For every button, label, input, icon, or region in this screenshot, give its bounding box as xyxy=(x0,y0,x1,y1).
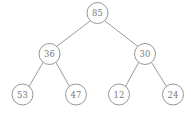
tree-edge xyxy=(126,63,139,87)
binary-tree-diagram: 85363053471224 xyxy=(0,0,191,114)
tree-node: 36 xyxy=(39,44,60,65)
node-label: 30 xyxy=(139,49,150,59)
tree-edge xyxy=(29,63,43,87)
tree-node: 47 xyxy=(66,84,87,105)
tree-edge xyxy=(56,63,70,87)
tree-edge xyxy=(105,21,138,47)
node-label: 12 xyxy=(113,90,124,100)
tree-node: 12 xyxy=(109,84,130,105)
node-label: 36 xyxy=(44,49,55,59)
tree-canvas: 85363053471224 xyxy=(0,0,191,114)
node-label: 53 xyxy=(17,90,28,100)
tree-nodes: 85363053471224 xyxy=(12,3,184,106)
node-label: 47 xyxy=(70,90,81,100)
tree-node: 53 xyxy=(12,84,33,105)
node-label: 85 xyxy=(92,8,103,18)
node-label: 24 xyxy=(167,90,178,100)
tree-node: 24 xyxy=(163,84,184,105)
tree-edge xyxy=(152,63,167,87)
tree-node: 85 xyxy=(87,3,108,24)
tree-edge xyxy=(57,21,91,47)
tree-node: 30 xyxy=(135,44,156,65)
